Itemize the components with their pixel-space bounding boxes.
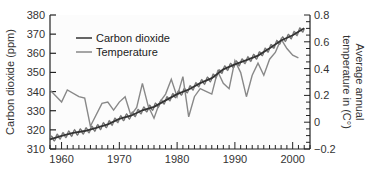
y2-axis-title-line2: temperature in (C°) [341,35,353,129]
y2-tick-label: 0.2 [314,89,329,101]
y2-tick-label: 0 [314,116,320,128]
y-tick-label: 370 [27,28,45,40]
y-tick-label: 340 [27,86,45,98]
x-tick-label: 1960 [49,153,73,165]
x-tick-label: 1990 [223,153,247,165]
legend-label: Temperature [96,46,158,58]
y2-tick-label: −0.2 [314,143,336,155]
plot-area [50,15,310,149]
y-tick-label: 330 [27,105,45,117]
y2-tick-label: 0.6 [314,36,329,48]
y-tick-label: 380 [27,9,45,21]
y-tick-label: 350 [27,66,45,78]
y-axis-title: Carbon dioxide (ppm) [4,29,16,135]
y-tick-label: 360 [27,47,45,59]
y-tick-label: 310 [27,143,45,155]
x-tick-label: 1970 [107,153,131,165]
y2-axis-title-line1: Average annual [354,44,366,121]
y2-tick-label: 0.4 [314,63,329,75]
y-tick-label: 320 [27,124,45,136]
legend-label: Carbon dioxide [96,32,170,44]
x-tick-label: 1980 [165,153,189,165]
x-tick-label: 2000 [280,153,304,165]
y2-tick-label: 0.8 [314,9,329,21]
chart: 310320330340350360370380 −0.200.20.40.60… [0,0,375,172]
